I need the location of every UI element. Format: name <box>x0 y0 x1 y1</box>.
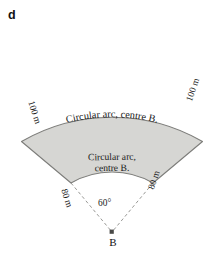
dashed-radius-right <box>112 183 153 232</box>
geometry-figure-annulus-sector: d Circular arc, centre B. Circular arc, … <box>0 0 224 257</box>
figure-canvas: Circular arc, centre B. <box>0 0 224 257</box>
centre-point-marker <box>110 230 114 234</box>
angle-label: 60° <box>98 198 111 208</box>
centre-point-label: B <box>105 236 121 248</box>
